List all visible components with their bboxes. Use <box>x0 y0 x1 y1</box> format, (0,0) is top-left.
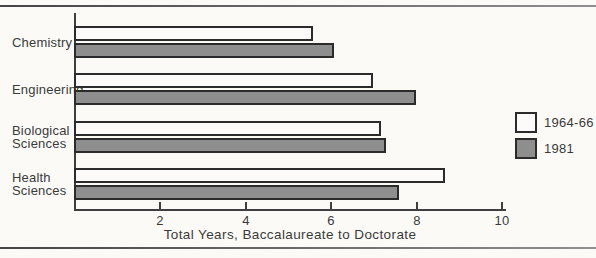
bar-engineering-1964-66 <box>74 73 373 88</box>
x-tick-10 <box>501 202 503 209</box>
x-tick-label-2: 2 <box>145 213 175 228</box>
x-tick-2 <box>159 202 161 209</box>
category-label-health-sciences: Health Sciences <box>12 168 76 200</box>
x-tick-8 <box>416 202 418 209</box>
bar-health-sciences-1981 <box>74 185 399 200</box>
x-axis-line <box>74 209 506 211</box>
bar-chemistry-1964-66 <box>74 26 313 41</box>
bar-biological-sciences-1981 <box>74 138 386 153</box>
legend-swatch-1981 <box>515 138 537 159</box>
x-tick-label-8: 8 <box>402 213 432 228</box>
category-label-engineering: Engineering <box>12 73 76 105</box>
bar-engineering-1981 <box>74 90 416 105</box>
x-axis-title: Total Years, Baccalaureate to Doctorate <box>75 227 505 242</box>
legend-item-1964-66: 1964-66 <box>515 112 594 133</box>
plot-area: ChemistryEngineeringBiological SciencesH… <box>0 0 596 258</box>
bar-biological-sciences-1964-66 <box>74 121 381 136</box>
x-tick-label-10: 10 <box>487 213 517 228</box>
bar-health-sciences-1964-66 <box>74 168 445 183</box>
x-tick-label-6: 6 <box>316 213 346 228</box>
figure: ChemistryEngineeringBiological SciencesH… <box>0 0 596 258</box>
legend-item-1981: 1981 <box>515 138 594 159</box>
bar-chemistry-1981 <box>74 43 334 58</box>
category-label-chemistry: Chemistry <box>12 26 76 58</box>
legend-label-1981: 1981 <box>544 141 574 156</box>
x-tick-label-4: 4 <box>231 213 261 228</box>
category-label-biological-sciences: Biological Sciences <box>12 121 76 153</box>
legend: 1964-66 1981 <box>515 112 594 159</box>
legend-swatch-1964-66 <box>515 112 537 133</box>
x-tick-4 <box>245 202 247 209</box>
legend-label-1964-66: 1964-66 <box>544 115 594 130</box>
bottom-rule <box>0 247 596 249</box>
x-tick-6 <box>330 202 332 209</box>
